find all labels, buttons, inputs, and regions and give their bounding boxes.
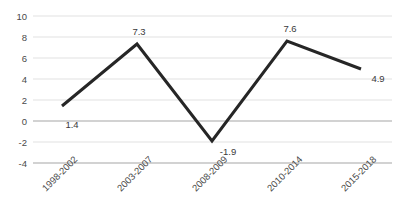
y-tick-label-8: 8 (22, 32, 27, 43)
data-label-1998-2002: 1.4 (65, 119, 78, 130)
y-tick-label-minus-2: -2 (19, 137, 27, 148)
series-line-path (62, 41, 361, 141)
y-tick-label-10: 10 (16, 11, 27, 22)
data-label-2010-2014: 7.6 (283, 23, 296, 34)
y-axis-tick-labels: 10 8 6 4 2 0 -2 -4 (16, 11, 27, 169)
data-label-2003-2007: 7.3 (132, 26, 145, 37)
data-label-2015-2018: 4.9 (371, 73, 384, 84)
y-tick-label-minus-4: -4 (19, 158, 27, 169)
y-tick-label-0: 0 (22, 116, 27, 127)
series-group (62, 41, 361, 141)
x-tick-label-2008-2009: 2008-2009 (190, 154, 230, 194)
x-tick-label-1998-2002: 1998-2002 (40, 154, 80, 194)
data-point-labels: 1.4 7.3 -1.9 7.6 4.9 (65, 23, 384, 157)
x-tick-label-2010-2014: 2010-2014 (265, 154, 305, 194)
line-chart: 10 8 6 4 2 0 -2 -4 1.4 7.3 -1.9 7.6 4.9 … (0, 0, 400, 215)
y-tick-label-4: 4 (22, 74, 27, 85)
y-tick-label-2: 2 (22, 95, 27, 106)
chart-canvas: 10 8 6 4 2 0 -2 -4 1.4 7.3 -1.9 7.6 4.9 … (0, 0, 400, 215)
x-axis-category-labels: 1998-2002 2003-2007 2008-2009 2010-2014 … (40, 154, 379, 194)
x-tick-label-2003-2007: 2003-2007 (115, 154, 155, 194)
x-tick-label-2015-2018: 2015-2018 (339, 154, 379, 194)
y-tick-label-6: 6 (22, 53, 27, 64)
